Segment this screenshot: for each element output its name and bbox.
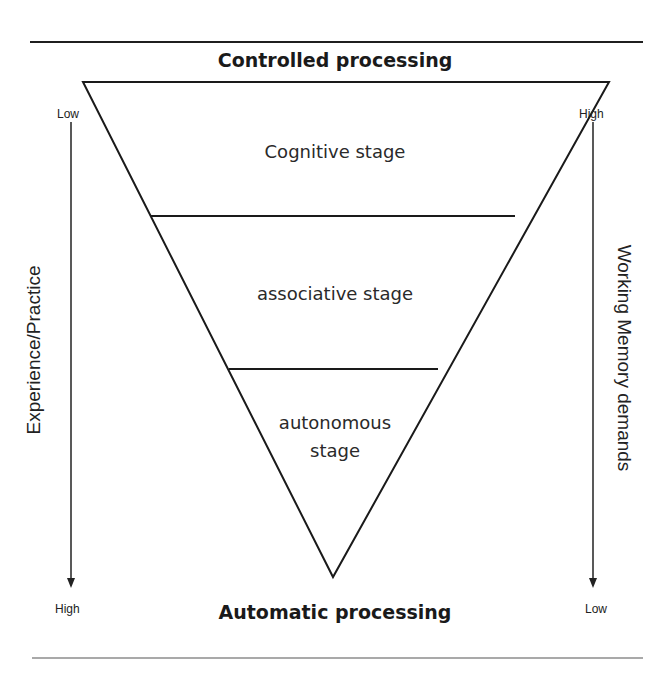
right-down-arrow-icon xyxy=(589,122,597,588)
autonomous-stage-label-line1: autonomous xyxy=(0,412,670,433)
right-axis-top-label: High xyxy=(579,107,604,121)
autonomous-stage-label-line2: stage xyxy=(0,440,670,461)
associative-stage-label: associative stage xyxy=(0,283,670,304)
right-axis-bottom-label: Low xyxy=(585,602,607,616)
left-axis-bottom-label: High xyxy=(55,602,80,616)
experience-practice-axis-label: Experience/Practice xyxy=(23,266,45,435)
diagram-canvas xyxy=(0,0,670,685)
left-down-arrow-icon xyxy=(67,122,75,588)
cognitive-stage-label: Cognitive stage xyxy=(0,141,670,162)
controlled-processing-label: Controlled processing xyxy=(0,49,670,71)
left-axis-top-label: Low xyxy=(57,107,79,121)
working-memory-demands-axis-label: Working Memory demands xyxy=(613,245,635,472)
automatic-processing-label: Automatic processing xyxy=(0,601,670,623)
